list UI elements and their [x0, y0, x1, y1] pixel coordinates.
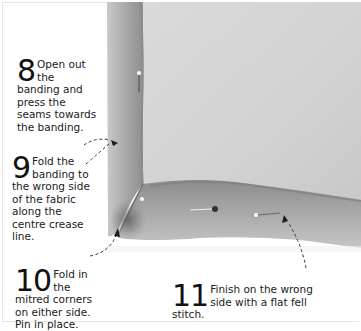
- step-number: 8: [17, 59, 35, 83]
- arrow-step10: [90, 235, 116, 256]
- step-number: 9: [12, 156, 30, 180]
- step-11: 11 Finish on the wrong side with a flat …: [172, 283, 322, 321]
- step-number: 11: [172, 284, 208, 308]
- step-8: 8 Open out the banding and press the sea…: [17, 58, 99, 133]
- step-10: 10 Fold in the mitred corners on either …: [15, 268, 105, 331]
- step-number: 10: [15, 269, 51, 293]
- step-9: 9 Fold the banding to the wrong side of …: [12, 155, 92, 243]
- arrow-step8: [84, 139, 110, 145]
